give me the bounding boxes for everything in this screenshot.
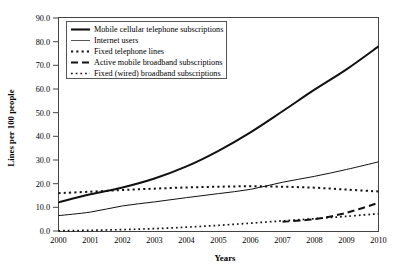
legend-item[interactable]: Active mobile broadband subscriptions (71, 58, 222, 67)
legend-item-label: Mobile cellular telephone subscriptions (94, 25, 223, 34)
line-chart: Lines per 100 people Years 90.0 80.0 70.… (0, 0, 405, 270)
x-tick-label: 2006 (242, 236, 258, 245)
y-tick-label: 90.0 (36, 14, 50, 23)
x-tick-label: 2003 (146, 236, 162, 245)
x-tick-label: 2004 (178, 236, 194, 245)
x-tick-label: 2010 (370, 236, 386, 245)
legend-item-label: Internet users (94, 36, 138, 45)
legend-item-label: Active mobile broadband subscriptions (94, 58, 222, 67)
x-tick-label: 2007 (274, 236, 290, 245)
y-tick-label: 80.0 (36, 38, 50, 47)
x-tick-label: 2009 (338, 236, 354, 245)
chart-container: Lines per 100 people Years 90.0 80.0 70.… (0, 0, 405, 270)
y-axis-title: Lines per 100 people (6, 89, 16, 166)
x-tick-label: 2002 (114, 236, 130, 245)
y-tick-label: 10.0 (36, 203, 50, 212)
legend: Mobile cellular telephone subscriptions … (67, 22, 227, 79)
x-tick-label: 2005 (210, 236, 226, 245)
y-tick-label: 0.0 (40, 227, 50, 236)
y-tick-label: 40.0 (36, 132, 50, 141)
y-tick-label: 30.0 (36, 156, 50, 165)
y-tick-label: 50.0 (36, 109, 50, 118)
x-tick-label: 2008 (306, 236, 322, 245)
x-tick-label: 2001 (82, 236, 98, 245)
x-axis-title: Years (214, 253, 236, 263)
legend-item-label: Fixed telephone lines (94, 47, 164, 56)
y-tick-label: 70.0 (36, 61, 50, 70)
legend-item-label: Fixed (wired) broadband subscriptions (94, 69, 221, 78)
x-tick-label: 2000 (50, 236, 66, 245)
legend-item[interactable]: Fixed (wired) broadband subscriptions (71, 69, 221, 78)
legend-item[interactable]: Mobile cellular telephone subscriptions (71, 25, 223, 34)
y-tick-label: 20.0 (36, 180, 50, 189)
y-tick-label: 60.0 (36, 85, 50, 94)
